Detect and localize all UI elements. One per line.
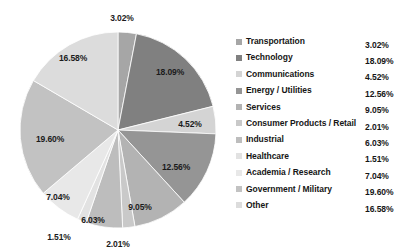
chart-legend: Transportation3.02%Technology18.09%Commu… xyxy=(236,36,417,216)
legend-item-value: 19.60% xyxy=(365,187,394,197)
legend-swatch-icon xyxy=(236,55,242,61)
pie-slice-value-label: 7.04% xyxy=(46,192,70,202)
legend-item[interactable]: Healthcare1.51% xyxy=(236,151,417,167)
legend-item[interactable]: Services9.05% xyxy=(236,102,417,118)
legend-swatch-icon xyxy=(236,39,242,45)
legend-item[interactable]: Industrial6.03% xyxy=(236,134,417,150)
legend-swatch-icon xyxy=(236,186,242,192)
legend-item[interactable]: Communications4.52% xyxy=(236,69,417,85)
pie-slice-value-label: 12.56% xyxy=(162,162,190,172)
pie-slice-value-label: 18.09% xyxy=(156,67,184,77)
legend-swatch-icon xyxy=(236,202,242,208)
legend-item-label: Healthcare xyxy=(246,151,289,161)
legend-item[interactable]: Technology18.09% xyxy=(236,52,417,68)
pie-slice-value-label: 6.03% xyxy=(81,215,105,225)
legend-item-value: 1.51% xyxy=(365,154,389,164)
legend-swatch-icon xyxy=(236,153,242,159)
legend-item-label: Communications xyxy=(246,69,314,79)
pie-chart-figure: 3.02%18.09%4.52%12.56%9.05%2.01%6.03%1.5… xyxy=(0,0,417,251)
legend-item-value: 7.04% xyxy=(365,171,389,181)
pie-slice-value-label: 3.02% xyxy=(110,13,134,23)
legend-swatch-icon xyxy=(236,71,242,77)
pie-slice-value-label: 16.58% xyxy=(59,53,87,63)
legend-item-value: 18.09% xyxy=(365,56,394,66)
legend-item-label: Technology xyxy=(246,52,293,62)
legend-item-label: Government / Military xyxy=(246,184,332,194)
legend-item-value: 6.03% xyxy=(365,138,389,148)
legend-swatch-icon xyxy=(236,88,242,94)
legend-item-label: Transportation xyxy=(246,36,305,46)
legend-swatch-icon xyxy=(236,170,242,176)
legend-item-label: Academia / Research xyxy=(246,167,331,177)
legend-swatch-icon xyxy=(236,104,242,110)
pie-slice-value-label: 9.05% xyxy=(128,202,152,212)
legend-item-label: Other xyxy=(246,200,268,210)
legend-item-label: Energy / Utilities xyxy=(246,85,312,95)
legend-swatch-icon xyxy=(236,137,242,143)
legend-item[interactable]: Energy / Utilities12.56% xyxy=(236,85,417,101)
pie-slice-value-label: 1.51% xyxy=(47,232,71,242)
legend-item[interactable]: Consumer Products / Retail2.01% xyxy=(236,118,417,134)
legend-item-label: Consumer Products / Retail xyxy=(246,118,356,128)
legend-item-value: 2.01% xyxy=(365,122,389,132)
legend-item[interactable]: Academia / Research7.04% xyxy=(236,167,417,183)
legend-item-label: Services xyxy=(246,102,281,112)
legend-item-value: 12.56% xyxy=(365,89,394,99)
legend-item[interactable]: Transportation3.02% xyxy=(236,36,417,52)
pie-slice-value-label: 2.01% xyxy=(106,239,130,249)
legend-item-value: 4.52% xyxy=(365,72,389,82)
legend-item-value: 3.02% xyxy=(365,40,389,50)
legend-item[interactable]: Other16.58% xyxy=(236,200,417,216)
legend-item-label: Industrial xyxy=(246,134,284,144)
legend-item-value: 9.05% xyxy=(365,105,389,115)
legend-swatch-icon xyxy=(236,120,242,126)
pie-slice-value-label: 19.60% xyxy=(36,134,64,144)
legend-item[interactable]: Government / Military19.60% xyxy=(236,184,417,200)
pie-chart-plot-area: 3.02%18.09%4.52%12.56%9.05%2.01%6.03%1.5… xyxy=(0,0,232,251)
pie-slice-value-label: 4.52% xyxy=(178,119,202,129)
legend-item-value: 16.58% xyxy=(365,204,394,214)
